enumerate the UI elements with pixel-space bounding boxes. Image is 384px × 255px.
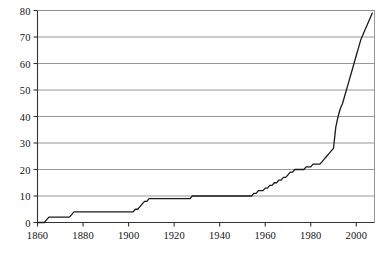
y-tick-label: 60 — [0, 58, 31, 69]
x-axis-ticks — [38, 223, 357, 227]
y-tick-label: 10 — [0, 191, 31, 202]
data-series — [38, 13, 373, 222]
y-tick-label: 20 — [0, 164, 31, 175]
x-tick-label: 1980 — [300, 230, 321, 241]
gridlines — [38, 11, 375, 197]
series-line — [38, 13, 373, 222]
y-tick-label: 70 — [0, 32, 31, 43]
y-tick-label: 40 — [0, 111, 31, 122]
chart-container: 01020304050607080 1860188019001920194019… — [0, 0, 384, 255]
y-tick-label: 80 — [0, 5, 31, 16]
y-tick-label: 30 — [0, 138, 31, 149]
x-tick-label: 1920 — [163, 230, 184, 241]
x-tick-label: 1900 — [118, 230, 139, 241]
x-tick-label: 1880 — [72, 230, 93, 241]
y-tick-label: 0 — [0, 217, 31, 228]
x-tick-label: 1860 — [27, 230, 48, 241]
chart-plot-area — [0, 0, 384, 255]
x-tick-label: 1960 — [254, 230, 275, 241]
y-tick-label: 50 — [0, 85, 31, 96]
x-tick-label: 2000 — [346, 230, 367, 241]
x-tick-label: 1940 — [209, 230, 230, 241]
y-axis-ticks — [34, 11, 38, 223]
